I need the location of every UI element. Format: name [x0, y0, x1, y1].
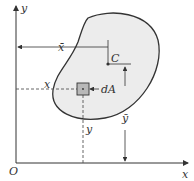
centroid-point — [106, 62, 109, 65]
centroid-label: C — [111, 52, 120, 65]
xbar-label: x̄ — [58, 41, 65, 54]
y-axis-label: y — [20, 2, 28, 15]
ybar-label: ȳ — [121, 112, 129, 125]
centroid-diagram: y x O x̄ C x dA y ȳ — [0, 0, 194, 181]
area-region — [53, 13, 159, 119]
da-label: dA — [101, 83, 116, 96]
x-axis-label: x — [182, 168, 189, 181]
y-coord-label: y — [85, 123, 93, 136]
x-coord-label: x — [44, 78, 51, 91]
origin-label: O — [9, 165, 18, 178]
